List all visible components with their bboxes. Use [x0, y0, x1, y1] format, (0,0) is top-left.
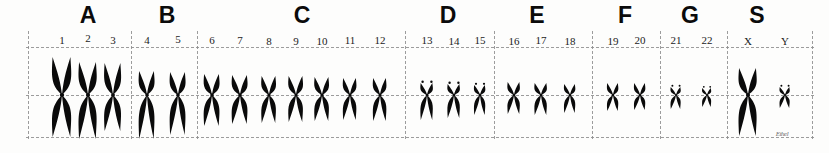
group-letter-c: C	[294, 4, 311, 27]
group-letter-b: B	[159, 4, 176, 27]
chromosome-10	[308, 69, 337, 129]
chromosome-17	[528, 75, 555, 123]
chromosome-x	[732, 60, 764, 144]
chromosome-9	[282, 68, 311, 130]
grid-divider-d-e	[494, 31, 495, 139]
group-letter-s: S	[749, 4, 764, 27]
chromosome-15	[467, 77, 493, 123]
chromosome-label-11: 11	[345, 35, 356, 46]
chromosome-label-15: 15	[475, 35, 486, 46]
signature-mark: Ethel	[776, 130, 788, 138]
chromosome-22	[695, 80, 719, 115]
chromosome-19	[600, 75, 626, 119]
chromosome-7	[225, 67, 255, 132]
chromosome-3	[98, 55, 129, 139]
chromosome-11	[336, 70, 364, 128]
chromosome-label-18: 18	[565, 36, 576, 47]
chromosome-y	[773, 79, 798, 116]
chromosome-18	[557, 76, 583, 121]
chromosome-5	[163, 64, 193, 143]
grid-divider-c-d	[405, 31, 406, 139]
group-letter-d: D	[440, 4, 457, 27]
chromosome-4	[132, 63, 162, 147]
chromosome-label-21: 21	[671, 35, 682, 46]
group-letter-g: G	[681, 4, 699, 27]
chromosome-label-y: Y	[781, 36, 789, 47]
chromosome-label-13: 13	[422, 35, 433, 46]
chromosome-label-20: 20	[635, 35, 646, 46]
chromosome-label-x: X	[744, 36, 752, 47]
grid-left-border	[28, 31, 29, 139]
karyotype-figure: ABCDEFGS 1234567891011121314151617181920…	[0, 0, 829, 153]
chromosome-13	[414, 75, 441, 128]
chromosome-label-19: 19	[608, 36, 619, 47]
group-letter-a: A	[80, 4, 97, 27]
grid-divider-e-f	[592, 31, 593, 139]
grid-divider-f-g	[660, 31, 661, 139]
chromosome-label-6: 6	[209, 35, 215, 46]
chromosome-label-7: 7	[237, 35, 243, 46]
chromosome-label-2: 2	[85, 33, 91, 44]
chromosome-label-5: 5	[175, 34, 181, 45]
chromosome-label-16: 16	[509, 36, 520, 47]
chromosome-label-3: 3	[110, 35, 116, 46]
grid-top-rule	[26, 47, 814, 48]
chromosome-16	[501, 74, 528, 122]
chromosome-label-14: 14	[449, 36, 460, 47]
grid-divider-g-s	[727, 31, 728, 139]
chromosome-21	[664, 79, 689, 117]
chromosome-label-17: 17	[536, 35, 547, 46]
chromosome-label-4: 4	[144, 35, 150, 46]
grid-right-border	[812, 31, 813, 139]
group-letter-e: E	[529, 4, 544, 27]
chromosome-20	[627, 75, 653, 118]
chromosome-14	[441, 76, 468, 126]
chromosome-label-8: 8	[266, 36, 272, 47]
chromosome-label-9: 9	[293, 36, 299, 47]
chromosome-label-10: 10	[317, 36, 328, 47]
chromosome-label-22: 22	[702, 35, 713, 46]
group-letter-f: F	[618, 4, 632, 27]
chromosome-label-12: 12	[375, 35, 386, 46]
chromosome-6	[197, 66, 227, 134]
chromosome-12	[366, 70, 394, 129]
chromosome-8	[255, 68, 284, 131]
chromosome-label-1: 1	[59, 35, 65, 46]
